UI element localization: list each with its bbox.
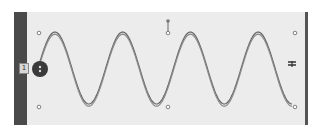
handle-top-left[interactable] [37, 31, 41, 35]
wave-diagram [0, 0, 320, 134]
wave-stroke [38, 32, 292, 104]
wave-stroke [38, 34, 292, 106]
end-terminal-icon[interactable] [288, 61, 296, 67]
handle-top-right[interactable] [293, 31, 297, 35]
pin-marker[interactable] [166, 19, 170, 35]
handles[interactable] [37, 31, 297, 109]
start-knob[interactable] [32, 61, 48, 77]
handle-bottom-left[interactable] [37, 105, 41, 109]
handle-bottom-mid[interactable] [166, 105, 170, 109]
handle-bottom-right[interactable] [293, 105, 297, 109]
sine-wave[interactable] [38, 32, 292, 106]
